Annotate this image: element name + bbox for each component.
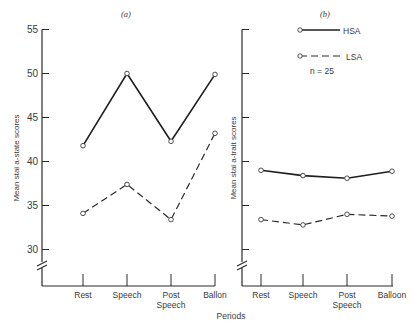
data-point-marker-icon [81,211,86,216]
x-tick-label: Speech [113,290,142,300]
y-tick-label: 40 [27,156,39,167]
figure: (a) (b) Mean stai a-state scores Mean st… [0,0,414,325]
y-tick-label: 45 [27,112,39,123]
x-tick-label: Rest [74,290,92,300]
panel-a-title: (a) [121,9,131,19]
data-point-marker-icon [259,217,264,222]
data-point-marker-icon [169,217,174,222]
panel-a-plot: 303540455055RestSpeechPostSpeechBallon [27,24,227,310]
x-axis-label: Periods [217,311,246,321]
data-point-marker-icon [301,173,306,178]
x-tick-label: Speech [289,290,318,300]
y-tick-label: 50 [27,68,39,79]
legend-hsa-marker-icon [298,28,302,32]
data-point-marker-icon [390,169,395,174]
series-line-lsa [261,214,392,225]
x-tick-label: Speech [333,300,362,310]
data-point-marker-icon [345,212,350,217]
y-axis-label-a: Mean stai a-state scores [12,114,21,201]
legend-lsa-label: LSA [346,52,362,62]
data-point-marker-icon [213,72,218,77]
legend-hsa-label: HSA [343,26,361,36]
x-tick-label: Post [162,290,180,300]
x-tick-label: Rest [252,290,270,300]
legend: HSA LSA n = 25 [298,26,363,77]
data-point-marker-icon [345,176,350,181]
series-line-hsa [261,170,392,178]
data-point-marker-icon [81,143,86,148]
y-tick-label: 35 [27,200,39,211]
data-point-marker-icon [259,168,264,173]
x-tick-label: Speech [157,300,186,310]
data-point-marker-icon [390,214,395,219]
y-axis-label-b: Mean stai a-trait scores [229,116,238,199]
y-tick-label: 30 [27,244,39,255]
y-tick-label: 55 [27,24,39,35]
x-tick-label: Ballon [203,290,227,300]
series-line-lsa [83,133,215,219]
data-point-marker-icon [301,223,306,228]
panel-b-title: (b) [320,9,330,19]
line-chart-svg: (a) (b) Mean stai a-state scores Mean st… [0,0,414,325]
data-point-marker-icon [213,131,218,136]
legend-lsa-marker-icon [298,54,302,58]
data-point-marker-icon [169,139,174,144]
series-line-hsa [83,74,215,146]
legend-n-note: n = 25 [310,66,334,76]
data-point-marker-icon [125,182,130,187]
x-tick-label: Post [338,290,356,300]
data-point-marker-icon [125,71,130,76]
x-tick-label: Balloon [378,290,407,300]
